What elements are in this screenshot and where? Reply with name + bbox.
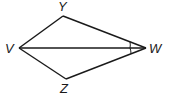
angle-mark-vwz: [130, 48, 131, 54]
label-y: Y: [58, 0, 68, 14]
segment-vy: [19, 16, 63, 48]
label-z: Z: [59, 81, 69, 96]
label-w: W: [149, 41, 163, 56]
segment-yw: [63, 16, 146, 48]
kite-diagram: Y V W Z: [0, 0, 170, 98]
segment-zw: [66, 48, 146, 79]
segment-vz: [19, 48, 66, 79]
label-v: V: [5, 41, 15, 56]
